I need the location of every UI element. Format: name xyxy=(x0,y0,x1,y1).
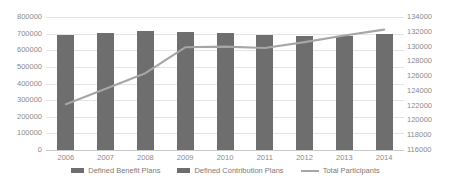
left-axis-tick-label: 200000 xyxy=(0,113,42,121)
right-axis-tick-label: 132000 xyxy=(407,28,451,36)
legend-bar-swatch-icon xyxy=(71,168,84,173)
left-axis-tick-label: 600000 xyxy=(0,46,42,54)
legend-item[interactable]: Defined Contribution Plans xyxy=(177,166,283,175)
legend-item-label: Total Participants xyxy=(323,166,380,175)
right-axis-tick-label: 124000 xyxy=(407,87,451,95)
category-axis-tick-label: 2013 xyxy=(324,153,364,162)
left-value-axis: 8000007000006000005000004000003000002000… xyxy=(0,0,42,190)
right-axis-tick-label: 122000 xyxy=(407,102,451,110)
right-axis-tick-label: 134000 xyxy=(407,13,451,21)
left-axis-tick-label: 700000 xyxy=(0,30,42,38)
legend-item-label: Defined Contribution Plans xyxy=(194,166,283,175)
plot-area xyxy=(46,17,404,150)
category-axis-tick-label: 2006 xyxy=(46,153,86,162)
category-axis-tick-label: 2012 xyxy=(285,153,325,162)
right-axis-tick-label: 128000 xyxy=(407,57,451,65)
right-axis-tick-label: 130000 xyxy=(407,43,451,51)
left-axis-tick-label: 800000 xyxy=(0,13,42,21)
right-axis-tick-label: 120000 xyxy=(407,116,451,124)
chart-container: 8000007000006000005000004000003000002000… xyxy=(0,0,451,190)
category-axis-tick-label: 2011 xyxy=(245,153,285,162)
left-axis-tick-label: 400000 xyxy=(0,80,42,88)
gridline xyxy=(46,150,404,151)
right-axis-tick-label: 126000 xyxy=(407,72,451,80)
legend-item[interactable]: Defined Benefit Plans xyxy=(71,166,160,175)
category-axis-tick-label: 2014 xyxy=(364,153,404,162)
category-axis-tick-label: 2009 xyxy=(165,153,205,162)
legend-item-label: Defined Benefit Plans xyxy=(88,166,160,175)
line-series-total-participants xyxy=(46,17,404,150)
category-axis-tick-label: 2007 xyxy=(86,153,126,162)
legend-line-swatch-icon xyxy=(301,170,319,172)
legend-bar-swatch-icon xyxy=(177,168,190,173)
right-axis-tick-label: 116000 xyxy=(407,146,451,154)
left-axis-tick-label: 300000 xyxy=(0,96,42,104)
right-axis-tick-label: 118000 xyxy=(407,131,451,139)
left-axis-tick-label: 0 xyxy=(0,146,42,154)
right-value-axis: 1340001320001300001280001260001240001220… xyxy=(407,0,451,190)
left-axis-tick-label: 500000 xyxy=(0,63,42,71)
legend-item[interactable]: Total Participants xyxy=(301,166,380,175)
category-axis-tick-label: 2010 xyxy=(205,153,245,162)
chart-legend: Defined Benefit PlansDefined Contributio… xyxy=(0,166,451,175)
left-axis-tick-label: 100000 xyxy=(0,129,42,137)
category-axis-tick-label: 2008 xyxy=(126,153,166,162)
